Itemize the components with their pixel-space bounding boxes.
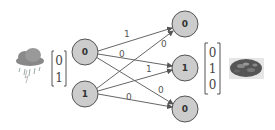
- output-node-0-label: 0: [182, 19, 188, 29]
- output-node-2: 0: [172, 96, 198, 122]
- edge-in1-out2: [98, 94, 172, 107]
- output-node-1-label: 1: [182, 63, 188, 73]
- input-vector-value-1: 1: [55, 71, 63, 85]
- input-node-1-label: 1: [82, 89, 88, 99]
- neural-network-diagram: 0 1 1 0 0 1 0 0 0 1 0 1 0 0 1: [0, 0, 275, 130]
- edge-weight-in1-out0: 0: [161, 39, 167, 49]
- input-node-1: 1: [72, 81, 98, 107]
- edge-weight-in1-out2: 0: [126, 92, 132, 102]
- edge-weight-in0-out0: 1: [124, 29, 130, 39]
- output-vector-value-1: 1: [209, 62, 217, 76]
- input-vector: 0 1: [52, 51, 66, 86]
- output-vector-value-2: 0: [209, 78, 217, 92]
- rain-cloud-icon: [16, 48, 44, 83]
- input-node-0-label: 0: [82, 47, 88, 57]
- output-vector-value-0: 0: [209, 46, 217, 60]
- output-node-0: 0: [172, 11, 198, 37]
- input-vector-value-0: 0: [55, 54, 63, 68]
- output-node-2-label: 0: [182, 104, 188, 114]
- food-dish-image: [229, 58, 264, 79]
- edge-weight-in0-out2: 0: [158, 85, 164, 95]
- edge-weight-in1-out1: 1: [146, 64, 152, 74]
- input-node-0: 0: [72, 39, 98, 65]
- output-vector: 0 1 0: [205, 43, 220, 94]
- output-node-1: 1: [172, 55, 198, 81]
- edge-weight-in0-out1: 0: [119, 49, 125, 59]
